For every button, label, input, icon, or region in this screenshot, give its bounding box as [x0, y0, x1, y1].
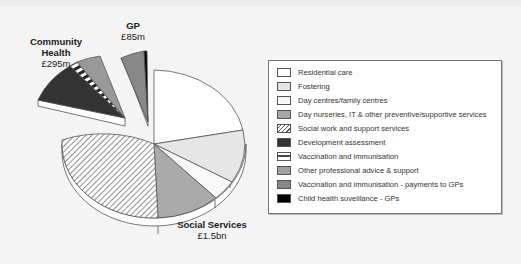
slice-gp-vaccination: [121, 51, 148, 122]
chart-legend: Residential care Fostering Day centres/f…: [268, 60, 502, 214]
legend-item: Day nurseries, IT & other preventive/sup…: [277, 107, 501, 121]
legend-swatch: [277, 124, 291, 133]
legend-swatch: [277, 82, 291, 91]
legend-item: Other professional advice & support: [277, 163, 501, 177]
legend-item: Vaccination and immunisation: [277, 149, 501, 163]
legend-swatch: [277, 166, 291, 175]
legend-item: Child health suveillance - GPs: [277, 191, 501, 205]
legend-item: Social work and support services: [277, 121, 501, 135]
legend-item: Development assessment: [277, 135, 501, 149]
legend-swatch: [277, 96, 291, 105]
legend-swatch: [277, 110, 291, 119]
legend-swatch: [277, 152, 291, 161]
social-services-label: Social Services £1.5bn: [172, 219, 252, 241]
legend-item: Day centres/family centres: [277, 93, 501, 107]
legend-item: Residential care: [277, 65, 501, 79]
legend-item: Vaccination and immunisation - payments …: [277, 177, 501, 191]
gp-pie: [121, 51, 148, 126]
slice-social-work: [62, 134, 158, 218]
legend-swatch: [277, 180, 291, 189]
gp-label: GP £85m: [118, 20, 148, 42]
community-health-label: Community Health £295m: [26, 36, 86, 69]
legend-item: Fostering: [277, 79, 501, 93]
legend-swatch: [277, 194, 291, 203]
legend-swatch: [277, 138, 291, 147]
legend-swatch: [277, 68, 291, 77]
